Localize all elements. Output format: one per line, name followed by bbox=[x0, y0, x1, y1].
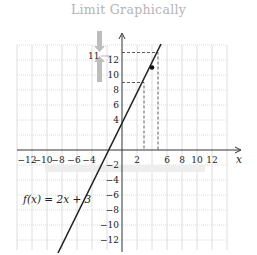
svg-text:8: 8 bbox=[179, 155, 185, 165]
svg-text:−6: −6 bbox=[67, 155, 81, 165]
svg-text:−2: −2 bbox=[106, 160, 119, 170]
svg-text:−4: −4 bbox=[82, 155, 96, 165]
svg-text:−12: −12 bbox=[100, 235, 119, 245]
svg-text:−8: −8 bbox=[51, 155, 65, 165]
svg-text:2: 2 bbox=[134, 155, 140, 165]
svg-text:−4: −4 bbox=[106, 175, 120, 185]
svg-text:10: 10 bbox=[191, 155, 203, 165]
svg-text:6: 6 bbox=[164, 155, 170, 165]
svg-text:−10: −10 bbox=[34, 155, 53, 165]
limit-chart: 11 1210 86 4−2 −4−6 −8−10 −12 −12−10 −8−… bbox=[0, 0, 257, 255]
svg-text:12: 12 bbox=[108, 55, 119, 65]
svg-text:−6: −6 bbox=[106, 190, 120, 200]
svg-text:6: 6 bbox=[113, 100, 119, 110]
axes bbox=[17, 33, 241, 252]
limit-value-label: 11 bbox=[88, 51, 99, 61]
svg-text:−8: −8 bbox=[106, 205, 120, 215]
highlight-point bbox=[150, 65, 155, 70]
svg-text:12: 12 bbox=[206, 155, 217, 165]
svg-text:10: 10 bbox=[108, 70, 120, 80]
svg-text:8: 8 bbox=[113, 85, 119, 95]
function-label: f(x) = 2x + 3 bbox=[22, 193, 92, 205]
svg-text:4: 4 bbox=[113, 115, 119, 125]
svg-text:−10: −10 bbox=[100, 220, 119, 230]
faded-caption bbox=[45, 165, 205, 172]
x-axis-label: x bbox=[236, 153, 242, 165]
